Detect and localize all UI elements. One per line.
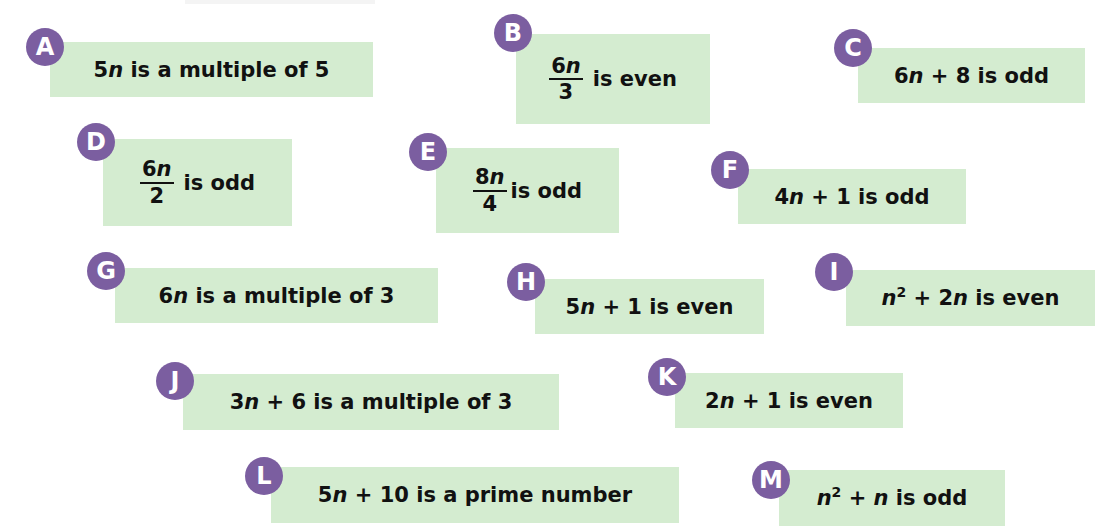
label-badge: A xyxy=(26,28,64,66)
statement-box: 6n + 8 is odd xyxy=(858,48,1085,103)
label-badge: M xyxy=(752,461,790,499)
statement-text: n2 + n is odd xyxy=(817,486,968,510)
fraction: 6n 2 xyxy=(140,158,174,206)
statement-text: 5n + 10 is a prime number xyxy=(318,483,632,507)
label-badge: G xyxy=(87,252,125,290)
label-badge: J xyxy=(156,362,194,400)
statement-box: 3n + 6 is a multiple of 3 xyxy=(183,374,559,430)
label-badge: L xyxy=(245,457,283,495)
label-badge: F xyxy=(711,151,749,189)
label-badge: E xyxy=(409,133,447,171)
statement-box: 2n + 1 is even xyxy=(675,373,903,428)
statement-text: 2n + 1 is even xyxy=(705,389,873,413)
statement-text: 6n + 8 is odd xyxy=(894,64,1049,88)
statement-box: 6n is a multiple of 3 xyxy=(115,268,438,323)
label-badge: H xyxy=(507,263,545,301)
statement-box: 5n is a multiple of 5 xyxy=(50,42,373,97)
statement-box: 6n 3 is even xyxy=(516,34,710,124)
statement-text: 5n + 1 is even xyxy=(566,295,734,319)
statement-text: 3n + 6 is a multiple of 3 xyxy=(230,390,513,414)
label-badge: I xyxy=(815,253,853,291)
fraction: 6n 3 xyxy=(549,55,583,103)
label-badge: D xyxy=(77,123,115,161)
statement-text: is odd xyxy=(184,171,256,195)
statement-text: is even xyxy=(593,67,677,91)
cropped-heading-remnant xyxy=(185,0,375,4)
statement-box: n2 + n is odd xyxy=(779,470,1005,526)
statement-text: 6n is a multiple of 3 xyxy=(159,284,395,308)
statement-box: 5n + 1 is even xyxy=(535,279,764,334)
statement-text: 5n is a multiple of 5 xyxy=(94,58,330,82)
fraction: 8n 4 xyxy=(473,166,507,214)
statement-text: n2 + 2n is even xyxy=(882,286,1060,310)
statement-text: 4n + 1 is odd xyxy=(774,185,929,209)
label-badge: C xyxy=(834,29,872,67)
statement-box: 5n + 10 is a prime number xyxy=(271,467,679,523)
statement-text: is odd xyxy=(511,179,583,203)
label-badge: B xyxy=(494,14,532,52)
statement-box: 8n 4 is odd xyxy=(436,148,619,233)
statement-box: 4n + 1 is odd xyxy=(738,169,966,224)
statement-box: 6n 2 is odd xyxy=(103,139,292,226)
statement-box: n2 + 2n is even xyxy=(846,270,1095,326)
label-badge: K xyxy=(648,358,686,396)
